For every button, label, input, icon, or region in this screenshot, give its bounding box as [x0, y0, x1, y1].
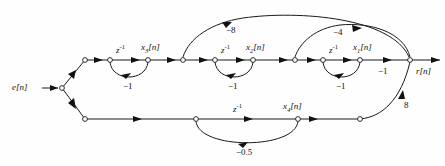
gain-label-loop-x4: −0.5 [236, 148, 252, 157]
node-top-start[interactable] [83, 58, 88, 63]
branch-upper-arrowhead [68, 70, 76, 79]
bottom-arrowhead-3 [309, 116, 318, 122]
main-arrowhead-9 [383, 57, 392, 63]
node-adder-x1[interactable] [321, 58, 326, 63]
bottom-arrowhead-2 [244, 116, 253, 122]
gain-label-output-branch: −1 [378, 67, 388, 76]
delay-label-x2: z-1 [221, 44, 230, 55]
delay-label-x4: z-1 [233, 103, 242, 114]
outer-feedback-arc [183, 15, 409, 57]
main-arrowhead-4 [199, 57, 208, 63]
main-arrowhead-3 [167, 57, 176, 63]
node-adder-x2[interactable] [213, 58, 218, 63]
node-adder-x3[interactable] [108, 58, 113, 63]
gain-label-loop-x1: −1 [336, 82, 346, 91]
delay-label-x1: z-1 [329, 44, 338, 55]
inner-feedback-arrowhead [352, 25, 362, 32]
state-label-x1: x1[n] [353, 43, 372, 54]
state-label-x2: x2[n] [246, 43, 265, 54]
node-bottom-end[interactable] [358, 117, 363, 122]
node-x1[interactable] [358, 58, 363, 63]
input-arrowhead [50, 85, 58, 91]
graph-canvas [0, 0, 445, 166]
main-arrowhead-8 [343, 57, 352, 63]
node-x2[interactable] [251, 58, 256, 63]
feedback-loop-x2-arrowhead [226, 73, 236, 79]
node-feedback-sum-inner[interactable] [293, 58, 298, 63]
node-adder-x4[interactable] [194, 117, 199, 122]
state-label-x3: x3[n] [141, 43, 160, 54]
node-feedback-sum-outer[interactable] [181, 58, 186, 63]
feedback-loop-x1-arrowhead [334, 73, 344, 79]
bottom-arrowhead-1 [133, 116, 142, 122]
gain-label-bottom-to-output: 8 [404, 101, 409, 110]
output-arrowhead [431, 57, 440, 63]
main-arrowhead-5 [236, 57, 245, 63]
output-signal-label: r[n] [416, 67, 431, 76]
input-signal-label: e[n] [12, 83, 28, 92]
signal-flow-graph-figure: e[n] r[n] z-1 z-1 z-1 z-1 x3[n] x2[n] x1… [0, 0, 445, 166]
gain-label-outer-feedback: −8 [226, 26, 236, 35]
branch-lower-arrowhead [68, 98, 76, 109]
node-bottom-start[interactable] [83, 117, 88, 122]
main-arrowhead-2 [131, 57, 140, 63]
gain-label-inner-feedback: −4 [333, 28, 343, 37]
gain-label-loop-x2: −1 [228, 82, 238, 91]
node-x3[interactable] [146, 58, 151, 63]
delay-label-x3: z-1 [116, 44, 125, 55]
main-arrowhead-6 [279, 57, 288, 63]
feedback-loop-x3-arrowhead [121, 73, 131, 79]
node-input-branch[interactable] [60, 86, 65, 91]
main-arrowhead-1 [94, 57, 103, 63]
gain-label-loop-x3: −1 [123, 82, 133, 91]
node-x4[interactable] [296, 117, 301, 122]
state-label-x4: x4[n] [283, 102, 302, 113]
node-output[interactable] [408, 58, 413, 63]
feedback-loop-x4 [196, 121, 298, 143]
main-arrowhead-7 [307, 57, 316, 63]
